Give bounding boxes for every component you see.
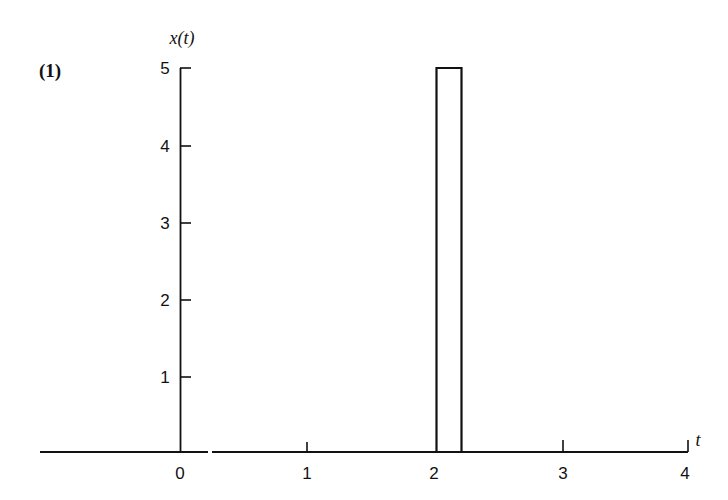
x-ticks — [307, 440, 688, 452]
y-tick-label-3: 3 — [160, 214, 169, 233]
y-tick-label-5: 5 — [160, 59, 169, 78]
x-tick-label-4: 4 — [680, 464, 689, 483]
x-tick-label-0: 0 — [175, 464, 184, 483]
pulse-signal — [437, 68, 462, 452]
y-axis-label: x(t) — [169, 28, 195, 49]
panel-label: (1) — [39, 60, 61, 82]
chart-canvas: 5 4 3 2 1 0 1 2 3 4 x(t) t (1) — [0, 0, 728, 500]
y-tick-label-2: 2 — [160, 291, 169, 310]
y-tick-label-1: 1 — [160, 368, 169, 387]
y-ticks — [180, 68, 191, 377]
y-tick-label-4: 4 — [160, 137, 169, 156]
x-axis-label: t — [695, 430, 701, 450]
x-tick-label-2: 2 — [429, 464, 438, 483]
x-tick-label-1: 1 — [302, 464, 311, 483]
x-tick-label-3: 3 — [558, 464, 567, 483]
